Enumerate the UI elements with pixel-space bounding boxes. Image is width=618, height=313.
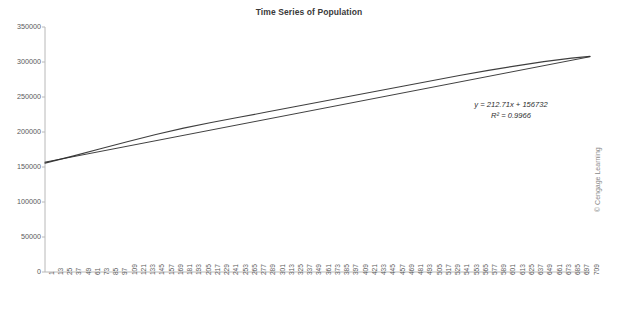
x-axis-tick-label: 373 bbox=[334, 264, 341, 275]
x-axis-tick-label: 145 bbox=[158, 264, 165, 275]
x-axis-tick-label: 49 bbox=[85, 268, 92, 275]
x-axis-tick-label: 649 bbox=[546, 264, 553, 275]
x-axis-tick-label: 37 bbox=[75, 268, 82, 275]
x-axis-tick-label: 97 bbox=[121, 268, 128, 275]
x-axis-tick-label: 349 bbox=[315, 264, 322, 275]
x-axis-tick-label: 253 bbox=[242, 264, 249, 275]
x-axis-tick-label: 529 bbox=[454, 264, 461, 275]
x-axis-tick-label: 457 bbox=[399, 264, 406, 275]
x-axis-tick-label: 1 bbox=[48, 271, 55, 275]
x-axis-tick-label: 169 bbox=[177, 264, 184, 275]
copyright-credit: © Cengage Learning bbox=[594, 147, 601, 212]
r-squared-value: R² = 0.9966 bbox=[452, 110, 570, 121]
x-axis-tick-label: 289 bbox=[269, 264, 276, 275]
x-axis-tick-label: 661 bbox=[556, 264, 563, 275]
x-axis-tick-label: 337 bbox=[306, 264, 313, 275]
x-axis-tick-label: 541 bbox=[463, 264, 470, 275]
x-axis-tick-label: 109 bbox=[131, 264, 138, 275]
x-axis-tick-label: 505 bbox=[436, 264, 443, 275]
x-axis-tick-label: 217 bbox=[214, 264, 221, 275]
x-axis-tick-label: 397 bbox=[352, 264, 359, 275]
x-axis-tick-label: 625 bbox=[528, 264, 535, 275]
x-axis-tick-label: 229 bbox=[223, 264, 230, 275]
x-axis-tick-label: 697 bbox=[583, 264, 590, 275]
trendline-equation: y = 212.71x + 156732 bbox=[452, 99, 570, 110]
x-axis-tick-label: 193 bbox=[195, 264, 202, 275]
x-axis-tick-labels: 1132537496173859710912113314515716918119… bbox=[0, 0, 618, 313]
x-axis-tick-label: 121 bbox=[140, 264, 147, 275]
x-axis-tick-label: 277 bbox=[260, 264, 267, 275]
x-axis-tick-label: 589 bbox=[500, 264, 507, 275]
x-axis-tick-label: 421 bbox=[371, 264, 378, 275]
x-axis-tick-label: 25 bbox=[66, 268, 73, 275]
x-axis-tick-label: 85 bbox=[112, 268, 119, 275]
x-axis-tick-label: 517 bbox=[445, 264, 452, 275]
x-axis-tick-label: 553 bbox=[473, 264, 480, 275]
x-axis-tick-label: 61 bbox=[94, 268, 101, 275]
x-axis-tick-label: 433 bbox=[380, 264, 387, 275]
x-axis-tick-label: 673 bbox=[565, 264, 572, 275]
x-axis-tick-label: 13 bbox=[57, 268, 64, 275]
trendline-annotation: y = 212.71x + 156732 R² = 0.9966 bbox=[452, 99, 570, 121]
x-axis-tick-label: 301 bbox=[279, 264, 286, 275]
x-axis-tick-label: 709 bbox=[593, 264, 600, 275]
x-axis-tick-label: 409 bbox=[362, 264, 369, 275]
x-axis-tick-label: 493 bbox=[426, 264, 433, 275]
x-axis-tick-label: 565 bbox=[482, 264, 489, 275]
x-axis-tick-label: 133 bbox=[149, 264, 156, 275]
x-axis-tick-label: 205 bbox=[205, 264, 212, 275]
chart-container: Time Series of Population 35000030000025… bbox=[0, 0, 618, 313]
x-axis-tick-label: 265 bbox=[251, 264, 258, 275]
x-axis-tick-label: 481 bbox=[417, 264, 424, 275]
x-axis-tick-label: 601 bbox=[509, 264, 516, 275]
x-axis-tick-label: 181 bbox=[186, 264, 193, 275]
x-axis-tick-label: 577 bbox=[491, 264, 498, 275]
x-axis-tick-label: 685 bbox=[574, 264, 581, 275]
x-axis-tick-label: 637 bbox=[537, 264, 544, 275]
x-axis-tick-label: 157 bbox=[168, 264, 175, 275]
x-axis-tick-label: 313 bbox=[288, 264, 295, 275]
x-axis-tick-label: 325 bbox=[297, 264, 304, 275]
x-axis-tick-label: 361 bbox=[325, 264, 332, 275]
x-axis-tick-label: 445 bbox=[389, 264, 396, 275]
x-axis-tick-label: 613 bbox=[519, 264, 526, 275]
x-axis-tick-label: 469 bbox=[408, 264, 415, 275]
x-axis-tick-label: 241 bbox=[232, 264, 239, 275]
x-axis-tick-label: 385 bbox=[343, 264, 350, 275]
x-axis-tick-label: 73 bbox=[103, 268, 110, 275]
